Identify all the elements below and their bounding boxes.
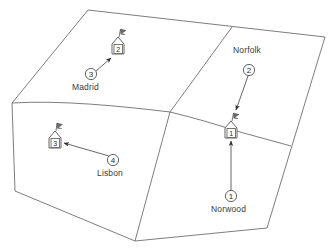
site-node-norfolk[interactable]: 1 2 1 — [225, 64, 255, 201]
site-label-lisbon: Lisbon — [97, 168, 123, 178]
region-divider-right — [240, 132, 291, 146]
flag-icon — [234, 113, 240, 119]
site-box-label: 1 — [229, 130, 233, 137]
flag-icon — [57, 123, 63, 129]
callout-leader-madrid — [96, 58, 111, 71]
site-box-label: 3 — [53, 140, 57, 147]
callout-label-norwood: 1 — [229, 192, 234, 201]
site-node-madrid[interactable]: 2 3 — [85, 29, 126, 80]
flag-pole-icon — [232, 113, 234, 121]
site-node-lisbon[interactable]: 3 4 — [49, 123, 119, 166]
callout-label-lisbon: 4 — [111, 156, 116, 165]
callout-label-madrid: 3 — [89, 70, 94, 79]
site-label-norwood: Norwood — [211, 204, 246, 214]
site-label-madrid: Madrid — [72, 82, 99, 92]
region-divider-upper — [12, 102, 170, 112]
map-diagram: 2 3 1 2 1 — [0, 0, 333, 249]
site-label-norfolk: Norfolk — [233, 45, 261, 55]
callout-leader-norfolk — [236, 76, 248, 110]
diagram-canvas: 2 3 1 2 1 — [0, 0, 333, 249]
callout-leader-lisbon — [64, 143, 109, 156]
callout-label-norfolk: 2 — [247, 66, 252, 75]
flag-icon — [121, 29, 127, 35]
flag-pole-icon — [119, 29, 121, 37]
site-box-label: 2 — [116, 46, 120, 53]
